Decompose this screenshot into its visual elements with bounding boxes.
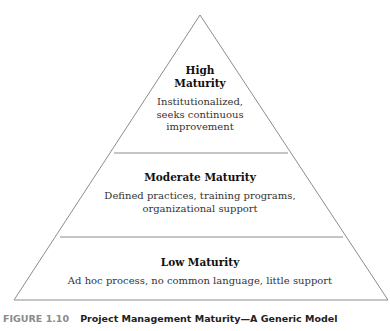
tier-title: High Maturity xyxy=(140,64,260,90)
tier-title-line: Maturity xyxy=(140,77,260,90)
tier-description: Institutionalized, seeks continuous impr… xyxy=(140,96,260,134)
tier-desc-line: organizational support xyxy=(80,203,320,216)
tier-low-maturity: Low Maturity Ad hoc process, no common l… xyxy=(40,256,360,288)
figure-caption: FIGURE 1.10 Project Management Maturity—… xyxy=(3,313,338,324)
tier-desc-line: Defined practices, training programs, xyxy=(80,190,320,203)
tier-desc-line: Institutionalized, xyxy=(140,96,260,109)
tier-desc-line: seeks continuous xyxy=(140,109,260,122)
figure-number: FIGURE 1.10 xyxy=(3,313,69,324)
tier-title-line: High xyxy=(140,64,260,77)
tier-high-maturity: High Maturity Institutionalized, seeks c… xyxy=(140,64,260,134)
tier-desc-line: Ad hoc process, no common language, litt… xyxy=(40,275,360,288)
figure-title: Project Management Maturity—A Generic Mo… xyxy=(80,313,337,324)
tier-title: Moderate Maturity xyxy=(80,171,320,184)
tier-title: Low Maturity xyxy=(40,256,360,269)
tier-desc-line: improvement xyxy=(140,121,260,134)
tier-description: Ad hoc process, no common language, litt… xyxy=(40,275,360,288)
tier-moderate-maturity: Moderate Maturity Defined practices, tra… xyxy=(80,171,320,215)
tier-description: Defined practices, training programs, or… xyxy=(80,190,320,215)
